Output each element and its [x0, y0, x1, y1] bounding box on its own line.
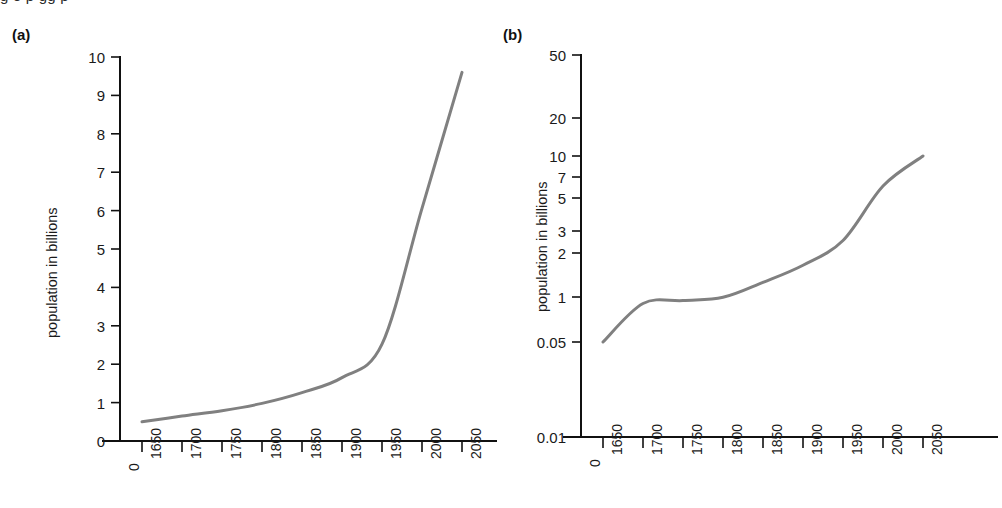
y-axis-tick-label: 3: [0, 317, 105, 334]
x-axis-tick-label: 0: [587, 459, 603, 467]
x-axis-tick-label: 1850: [769, 424, 785, 455]
y-axis-tick-label: 0.01: [501, 429, 566, 446]
y-axis-tick-label: 6: [0, 202, 105, 219]
chart-panel-a: (a) population in billions 0123456789100…: [0, 0, 501, 508]
x-axis-tick-label: 1800: [268, 428, 284, 459]
y-axis-tick-label: 2: [501, 245, 566, 262]
y-axis-tick-label: 5: [501, 190, 566, 207]
y-axis-tick-label: 2: [0, 356, 105, 373]
population-curve: [142, 72, 462, 421]
x-axis-tick-label: 1900: [809, 424, 825, 455]
y-axis-tick-label: 50: [501, 47, 566, 64]
x-axis-tick-label: 2050: [468, 428, 484, 459]
y-axis-tick-label: 7: [501, 169, 566, 186]
x-axis-tick-label: 2000: [889, 424, 905, 455]
x-axis-tick-label: 0: [126, 463, 142, 471]
y-axis-tick-label: 9: [0, 87, 105, 104]
y-axis-tick-label: 0: [0, 433, 105, 450]
y-axis-tick-label: 20: [501, 110, 566, 127]
y-axis-tick-label: 4: [0, 279, 105, 296]
x-axis-tick-label: 1750: [228, 428, 244, 459]
chart-panel-b: (b) population in billions 0.010.0512357…: [501, 0, 1002, 508]
x-axis-tick-label: 2000: [428, 428, 444, 459]
y-axis-tick-label: 7: [0, 164, 105, 181]
x-axis-tick-label: 1900: [348, 428, 364, 459]
x-axis-tick-label: 1950: [849, 424, 865, 455]
x-axis-tick-label: 1950: [388, 428, 404, 459]
plot-area-b: [501, 0, 1002, 508]
y-axis-tick-label: 1: [501, 289, 566, 306]
y-axis-tick-label: 10: [501, 148, 566, 165]
x-axis-tick-label: 2050: [929, 424, 945, 455]
population-curve: [603, 156, 923, 342]
x-axis-tick-label: 1700: [649, 424, 665, 455]
x-axis-tick-label: 1650: [609, 424, 625, 455]
x-axis-tick-label: 1800: [729, 424, 745, 455]
x-axis-tick-label: 1750: [689, 424, 705, 455]
x-axis-tick-label: 1650: [148, 428, 164, 459]
y-axis-tick-label: 8: [0, 125, 105, 142]
y-axis-tick-label: 0.05: [501, 334, 566, 351]
y-axis-tick-label: 1: [0, 394, 105, 411]
y-axis-tick-label: 3: [501, 223, 566, 240]
y-axis-tick-label: 10: [0, 49, 105, 66]
y-axis-tick-label: 5: [0, 241, 105, 258]
x-axis-tick-label: 1850: [308, 428, 324, 459]
x-axis-tick-label: 1700: [188, 428, 204, 459]
